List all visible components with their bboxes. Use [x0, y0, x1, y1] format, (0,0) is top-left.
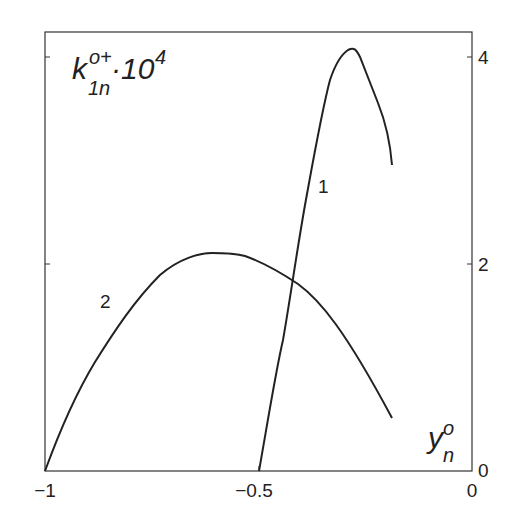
x-title-sup: o: [443, 417, 454, 439]
x-tick-label--1: −1: [34, 480, 56, 501]
y-tick-label-2: 2: [478, 254, 489, 275]
y-axis-title: k o+ 1n ·10 4: [72, 46, 166, 99]
y-title-exp: 4: [155, 46, 166, 68]
curve-1-label: 1: [318, 176, 329, 197]
y-title-sup: o+: [89, 46, 112, 68]
y-title-mult: ·10: [111, 52, 155, 85]
x-axis-title: y o n: [426, 417, 454, 466]
curve-1: [259, 49, 392, 471]
x-tick-label-0: 0: [467, 480, 478, 501]
x-title-sub: n: [443, 444, 454, 466]
chart: 4 2 0 −1 −0.5 0 1 2 k o+ 1n ·10 4 y o n: [0, 0, 516, 526]
y-title-sub: 1n: [88, 77, 110, 99]
x-tick-label--0.5: −0.5: [235, 480, 273, 501]
curve-2: [45, 253, 392, 471]
y-tick-label-0: 0: [478, 460, 489, 481]
y-tick-label-4: 4: [478, 47, 489, 68]
y-title-base: k: [72, 52, 89, 85]
curve-2-label: 2: [100, 291, 111, 312]
